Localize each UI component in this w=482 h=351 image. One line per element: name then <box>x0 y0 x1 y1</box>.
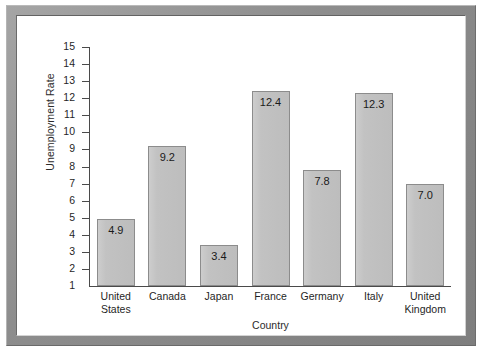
bar-group: 9.2 <box>148 47 186 286</box>
bar-value-label: 7.8 <box>304 175 340 187</box>
bar-group: 7.8 <box>303 47 341 286</box>
x-axis-tick-label-line: Japan <box>193 290 245 303</box>
chart-canvas: Unemployment Rate 151413121110987654321 … <box>16 15 466 336</box>
bar: 12.3 <box>355 93 393 286</box>
x-axis-tick-label: Canada <box>142 290 194 303</box>
y-axis-tick-mark <box>82 167 89 168</box>
bar-group: 12.3 <box>355 47 393 286</box>
x-axis-tick-label: Germany <box>296 290 348 303</box>
y-axis-tick-label: 10 <box>49 125 75 137</box>
y-axis-tick-mark <box>82 218 89 219</box>
y-axis-tick-label: 8 <box>49 160 75 172</box>
bar: 7.0 <box>406 184 444 286</box>
x-axis-tick-label: France <box>245 290 297 303</box>
x-axis-tick-label-line: United <box>399 290 451 303</box>
bar-value-label: 12.4 <box>253 96 289 108</box>
y-axis-tick-mark <box>82 132 89 133</box>
x-axis-tick-label-line: Canada <box>142 290 194 303</box>
y-axis-tick-label: 2 <box>49 262 75 274</box>
y-axis-tick-label: 4 <box>49 228 75 240</box>
x-axis-title: Country <box>90 319 451 331</box>
y-axis-tick-mark <box>82 47 89 48</box>
y-axis-tick-label: 1 <box>49 279 75 291</box>
x-axis-tick-label-line: States <box>90 303 142 316</box>
bar: 12.4 <box>252 91 290 286</box>
x-axis-line <box>89 286 451 287</box>
bar-group: 4.9 <box>97 47 135 286</box>
bar-group: 3.4 <box>200 47 238 286</box>
x-axis-tick-label: Japan <box>193 290 245 303</box>
bar-group: 12.4 <box>252 47 290 286</box>
bar-value-label: 7.0 <box>407 189 443 201</box>
bar-value-label: 9.2 <box>149 151 185 163</box>
y-axis-tick-mark <box>82 115 89 116</box>
y-axis-tick-mark <box>82 201 89 202</box>
y-axis-tick-mark <box>82 252 89 253</box>
y-axis-tick-mark <box>82 98 89 99</box>
y-axis-tick-mark <box>82 64 89 65</box>
x-axis-tick-label-line: Italy <box>348 290 400 303</box>
y-axis-tick-mark <box>82 235 89 236</box>
bar: 9.2 <box>148 146 186 286</box>
y-axis-tick-mark <box>82 184 89 185</box>
y-axis-tick-label: 7 <box>49 177 75 189</box>
y-axis-tick-label: 3 <box>49 245 75 257</box>
y-axis: 151413121110987654321 <box>17 16 89 339</box>
y-axis-tick-label: 13 <box>49 74 75 86</box>
y-axis-tick-label: 5 <box>49 211 75 223</box>
bar: 7.8 <box>303 170 341 286</box>
y-axis-tick-label: 6 <box>49 194 75 206</box>
y-axis-tick-mark <box>82 81 89 82</box>
y-axis-tick-label: 12 <box>49 91 75 103</box>
x-axis-tick-label-line: United <box>90 290 142 303</box>
bar-value-label: 12.3 <box>356 98 392 110</box>
y-axis-tick-label: 15 <box>49 40 75 52</box>
image-frame-border: Unemployment Rate 151413121110987654321 … <box>6 5 476 346</box>
x-axis-tick-label-line: Germany <box>296 290 348 303</box>
y-axis-tick-label: 11 <box>49 108 75 120</box>
bar-value-label: 4.9 <box>98 224 134 236</box>
y-axis-tick-label: 14 <box>49 57 75 69</box>
bar-chart: Unemployment Rate 151413121110987654321 … <box>17 16 469 339</box>
y-axis-tick-mark <box>82 149 89 150</box>
y-axis-tick-mark <box>82 269 89 270</box>
x-axis-tick-label: UnitedKingdom <box>399 290 451 316</box>
x-axis-tick-label: UnitedStates <box>90 290 142 316</box>
x-axis-tick-label: Italy <box>348 290 400 303</box>
x-axis-tick-label-line: France <box>245 290 297 303</box>
bar: 3.4 <box>200 245 238 286</box>
bar-value-label: 3.4 <box>201 250 237 262</box>
bar: 4.9 <box>97 219 135 286</box>
bar-group: 7.0 <box>406 47 444 286</box>
plot-area: 4.99.23.412.47.812.37.0 <box>90 47 451 286</box>
y-axis-tick-label: 9 <box>49 142 75 154</box>
x-axis-tick-label-line: Kingdom <box>399 303 451 316</box>
